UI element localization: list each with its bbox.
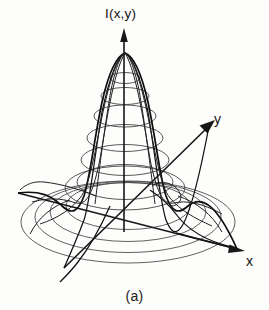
figure-caption: (a) <box>0 288 269 304</box>
vertical-axis-arrowhead <box>120 28 128 42</box>
figure-canvas <box>0 0 269 310</box>
figure-3d-intensity-plot: I(x,y) y x (a) <box>0 0 269 310</box>
vertical-axis-label: I(x,y) <box>105 6 136 21</box>
y-axis-group <box>64 120 215 268</box>
x-axis-foreground-segment <box>176 233 237 249</box>
base-ring-outer-3 <box>50 183 206 242</box>
y-axis-arrowhead <box>200 120 216 134</box>
y-axis-label: y <box>214 111 221 127</box>
y-axis-line <box>64 126 209 268</box>
x-axis-foreground-line <box>176 233 237 249</box>
x-axis-label: x <box>246 253 253 269</box>
vertical-axis-group <box>120 28 128 232</box>
